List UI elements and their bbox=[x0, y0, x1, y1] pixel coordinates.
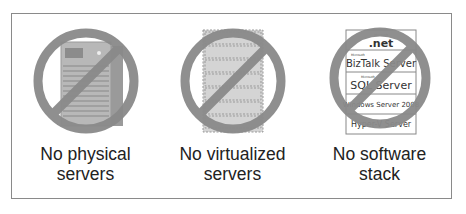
caption-physical-servers: No physical servers bbox=[12, 144, 159, 184]
caption-line-2: stack bbox=[306, 164, 453, 184]
caption-virtualized-servers: No virtualized servers bbox=[159, 144, 306, 184]
caption-line-1: No physical bbox=[12, 144, 159, 164]
panel-virtualized-servers: No virtualized servers bbox=[159, 14, 306, 198]
caption-line-2: servers bbox=[12, 164, 159, 184]
no-software-stack-icon: Microsoft .net Microsoft BizTalk Server … bbox=[325, 26, 435, 136]
svg-text:.net: .net bbox=[368, 37, 393, 50]
no-physical-server-icon bbox=[31, 26, 141, 136]
caption-software-stack: No software stack bbox=[306, 144, 453, 184]
no-virtualized-server-icon bbox=[178, 26, 288, 136]
diagram-frame: No physical servers bbox=[11, 13, 452, 199]
caption-line-1: No virtualized bbox=[159, 144, 306, 164]
panel-software-stack: Microsoft .net Microsoft BizTalk Server … bbox=[306, 14, 453, 198]
caption-line-1: No software bbox=[306, 144, 453, 164]
caption-line-2: servers bbox=[159, 164, 306, 184]
svg-text:BizTalk Server: BizTalk Server bbox=[345, 58, 416, 69]
svg-text:Microsoft: Microsoft bbox=[351, 53, 365, 57]
panel-physical-servers: No physical servers bbox=[12, 14, 159, 198]
